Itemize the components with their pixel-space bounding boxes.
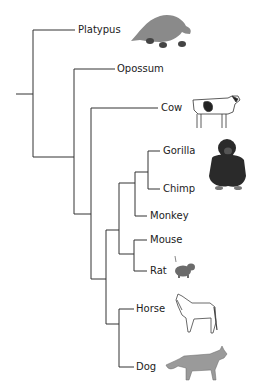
phylogenetic-tree: [0, 0, 264, 390]
taxon-label-rat: Rat: [150, 265, 167, 277]
taxon-label-opossum: Opossum: [117, 63, 164, 75]
taxon-label-dog: Dog: [136, 361, 156, 373]
tree-branches: [16, 30, 160, 367]
cow-icon: [193, 96, 240, 128]
dog-icon: [166, 346, 227, 380]
taxon-label-platypus: Platypus: [78, 24, 121, 36]
taxon-label-chimp: Chimp: [163, 183, 195, 195]
rat-icon: [175, 256, 195, 278]
taxon-label-monkey: Monkey: [150, 210, 189, 222]
taxon-label-mouse: Mouse: [150, 234, 182, 246]
taxon-label-horse: Horse: [136, 303, 165, 315]
chimp-icon: [209, 139, 246, 190]
platypus-icon: [131, 15, 191, 48]
taxon-label-cow: Cow: [161, 102, 182, 114]
horse-icon: [176, 294, 217, 333]
taxon-label-gorilla: Gorilla: [163, 145, 195, 157]
